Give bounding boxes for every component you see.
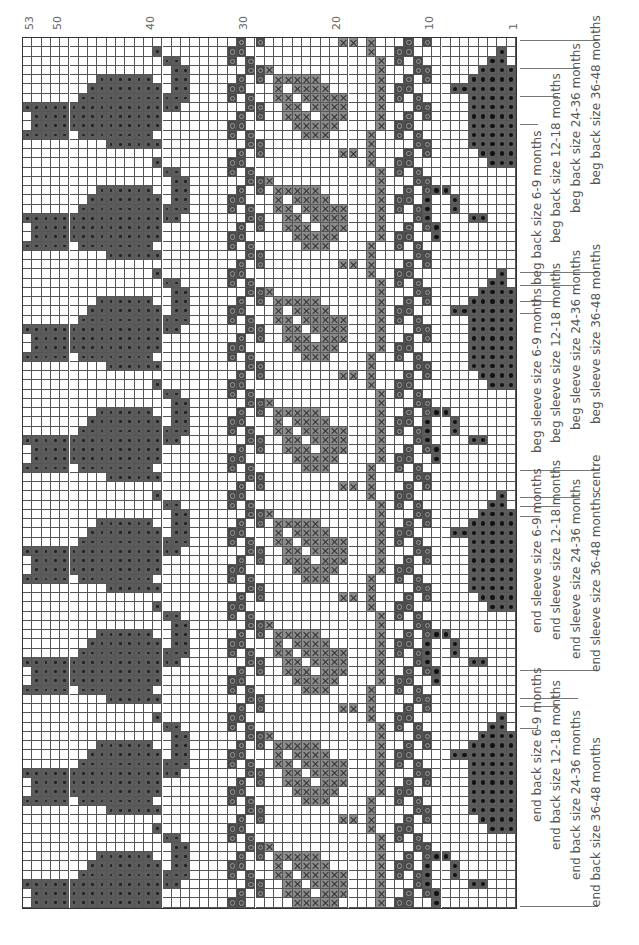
chart-cell: [311, 343, 320, 352]
chart-cell: [23, 38, 32, 47]
chart-cell: [163, 445, 172, 454]
chart-cell: [181, 112, 190, 121]
chart-cell: [144, 464, 153, 473]
chart-cell: [209, 112, 218, 121]
chart-cell: [209, 787, 218, 796]
chart-cell: [79, 889, 88, 898]
chart-cell: [423, 750, 432, 759]
chart-cell: [125, 94, 134, 103]
chart-cell: [376, 464, 385, 473]
chart-cell: [181, 556, 190, 565]
chart-cell: [367, 713, 376, 722]
chart-cell: [23, 538, 32, 547]
chart-cell: [395, 232, 404, 241]
chart-cell: [190, 510, 199, 519]
chart-cell: [42, 880, 51, 889]
chart-cell: [135, 417, 144, 426]
chart-cell: [256, 649, 265, 658]
chart-cell: [97, 223, 106, 232]
chart-cell: [386, 491, 395, 500]
chart-cell: [386, 834, 395, 843]
chart-cell: [414, 325, 423, 334]
chart-cell: [442, 898, 451, 907]
chart-cell: [265, 399, 274, 408]
chart-cell: [23, 427, 32, 436]
chart-cell: [376, 686, 385, 695]
chart-cell: [23, 205, 32, 214]
chart-cell: [469, 84, 478, 93]
chart-cell: [423, 584, 432, 593]
chart-cell: [190, 223, 199, 232]
chart-cell: [181, 131, 190, 140]
chart-cell: [414, 824, 423, 833]
chart-cell: [274, 639, 283, 648]
chart-cell: [330, 649, 339, 658]
chart-cell: [42, 575, 51, 584]
chart-cell: [376, 528, 385, 537]
chart-cell: [42, 399, 51, 408]
chart-cell: [321, 732, 330, 741]
chart-cell: [60, 325, 69, 334]
chart-cell: [135, 454, 144, 463]
chart-cell: [302, 575, 311, 584]
chart-cell: [404, 630, 413, 639]
chart-cell: [60, 473, 69, 482]
chart-cell: [469, 168, 478, 177]
chart-cell: [339, 510, 348, 519]
chart-cell: [107, 593, 116, 602]
chart-cell: [451, 713, 460, 722]
chart-cell: [488, 399, 497, 408]
chart-cell: [42, 343, 51, 352]
chart-cell: [414, 843, 423, 852]
chart-cell: [228, 750, 237, 759]
chart-cell: [246, 47, 255, 56]
chart-cell: [469, 186, 478, 195]
chart-cell: [97, 834, 106, 843]
chart-cell: [88, 658, 97, 667]
chart-cell: [144, 279, 153, 288]
chart-cell: [32, 279, 41, 288]
chart-cell: [23, 898, 32, 907]
chart-cell: [395, 584, 404, 593]
chart-cell: [293, 288, 302, 297]
chart-cell: [51, 251, 60, 260]
chart-cell: [349, 528, 358, 537]
chart-cell: [97, 158, 106, 167]
chart-cell: [283, 158, 292, 167]
chart-cell: [349, 898, 358, 907]
chart-cell: [302, 140, 311, 149]
size-marker-label: beg sleeve size 12-18 months: [549, 263, 563, 443]
chart-cell: [70, 408, 79, 417]
chart-cell: [358, 769, 367, 778]
chart-cell: [386, 686, 395, 695]
chart-cell: [321, 251, 330, 260]
chart-cell: [311, 399, 320, 408]
chart-cell: [497, 612, 506, 621]
chart-cell: [246, 630, 255, 639]
chart-cell: [479, 713, 488, 722]
chart-cell: [274, 251, 283, 260]
chart-cell: [265, 121, 274, 130]
chart-cell: [237, 399, 246, 408]
chart-cell: [79, 436, 88, 445]
chart-cell: [488, 177, 497, 186]
chart-cell: [144, 898, 153, 907]
chart-cell: [293, 417, 302, 426]
chart-cell: [367, 639, 376, 648]
chart-cell: [256, 593, 265, 602]
chart-cell: [125, 269, 134, 278]
chart-cell: [23, 593, 32, 602]
chart-cell: [376, 575, 385, 584]
chart-cell: [293, 66, 302, 75]
chart-cell: [163, 510, 172, 519]
chart-cell: [51, 760, 60, 769]
chart-cell: [144, 205, 153, 214]
chart-cell: [79, 205, 88, 214]
chart-cell: [23, 667, 32, 676]
chart-cell: [172, 205, 181, 214]
chart-cell: [404, 584, 413, 593]
chart-cell: [51, 177, 60, 186]
chart-cell: [116, 158, 125, 167]
chart-cell: [265, 741, 274, 750]
chart-cell: [293, 297, 302, 306]
